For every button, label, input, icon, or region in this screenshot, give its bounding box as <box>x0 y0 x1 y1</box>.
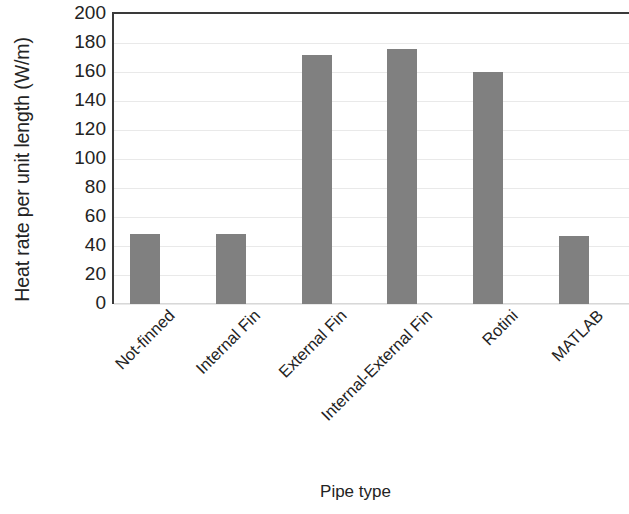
x-axis-title: Pipe type <box>0 482 627 502</box>
y-axis-tick-label: 20 <box>48 264 106 283</box>
bar <box>559 236 589 304</box>
y-axis-tick-label: 120 <box>48 119 106 138</box>
y-axis-tick-label: 80 <box>48 177 106 196</box>
x-axis-tick-label: External Fin <box>274 306 350 382</box>
y-axis-tick-label: 200 <box>48 3 106 22</box>
y-axis-tick-label: 140 <box>48 90 106 109</box>
bar <box>473 72 503 304</box>
x-axis-tick-label: Rotini <box>478 306 521 349</box>
x-axis-tick-label: MATLAB <box>548 306 607 365</box>
bar <box>216 234 246 304</box>
y-axis-title: Heat rate per unit length (W/m) <box>11 10 34 330</box>
gridline <box>114 304 629 305</box>
x-axis-tick-label: Not-finned <box>111 306 178 373</box>
y-axis-tick-label: 180 <box>48 32 106 51</box>
x-axis-tick-labels: Not-finnedInternal FinExternal FinIntern… <box>112 306 627 456</box>
y-axis-tick-label: 60 <box>48 206 106 225</box>
bar <box>387 49 417 304</box>
bar <box>302 55 332 304</box>
plot-area <box>112 12 629 304</box>
y-axis-tick-label: 100 <box>48 148 106 167</box>
y-axis-tick-labels: 200180160140120100806040200 <box>48 0 106 314</box>
y-axis-tick-label: 0 <box>48 293 106 312</box>
y-axis-tick-label: 40 <box>48 235 106 254</box>
bar <box>130 234 160 304</box>
x-axis-title-text: Pipe type <box>320 482 391 501</box>
y-axis-tick-label: 160 <box>48 61 106 80</box>
x-axis-tick-label: Internal Fin <box>192 306 264 378</box>
bar-series <box>114 14 629 304</box>
